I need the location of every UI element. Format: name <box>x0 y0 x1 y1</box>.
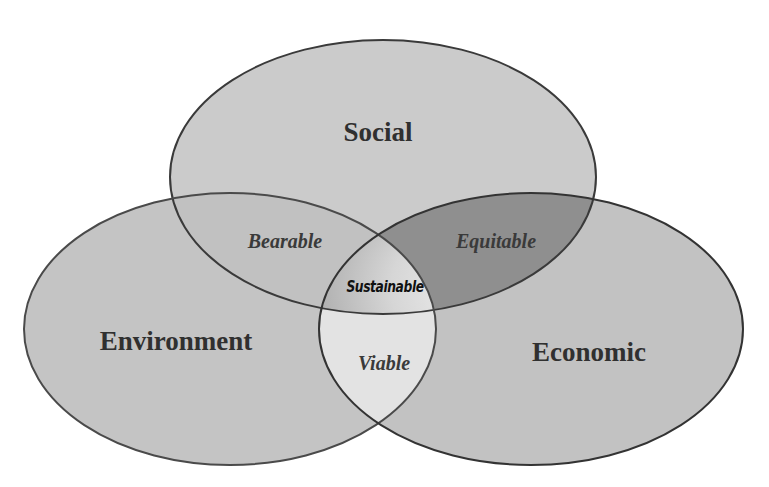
venn-diagram: Social Environment Economic Bearable Equ… <box>0 0 769 487</box>
label-equitable: Equitable <box>456 230 536 253</box>
label-economic: Economic <box>532 337 646 368</box>
label-sustainable: Sustainable <box>346 278 423 296</box>
label-environment: Environment <box>100 326 253 357</box>
venn-shapes <box>0 0 769 487</box>
label-social: Social <box>343 117 412 148</box>
label-bearable: Bearable <box>248 230 322 253</box>
label-viable: Viable <box>358 352 410 375</box>
